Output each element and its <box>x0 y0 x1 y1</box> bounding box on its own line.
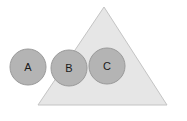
circle-c-label: C <box>103 60 111 72</box>
circle-a-label: A <box>24 61 32 73</box>
circle-b-group: B <box>51 50 87 86</box>
diagram-svg: A B C <box>0 0 187 121</box>
diagram-canvas: A B C <box>0 0 187 121</box>
circle-a-group: A <box>10 49 46 85</box>
circle-b-label: B <box>65 62 72 74</box>
circle-c-group: C <box>89 48 125 84</box>
